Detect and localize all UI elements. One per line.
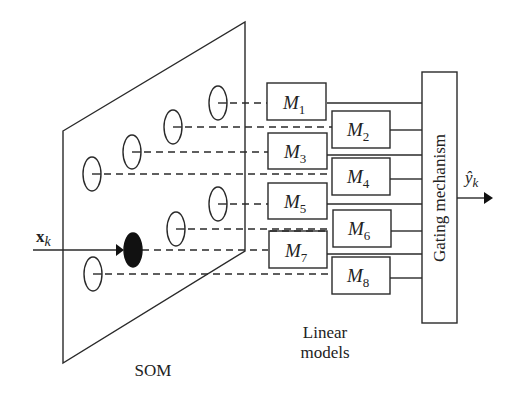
gating-mechanism-box: Gating mechanism bbox=[422, 72, 457, 323]
arrowhead-icon bbox=[116, 244, 124, 256]
gating-label: Gating mechanism bbox=[430, 134, 449, 262]
output-label: ŷk bbox=[463, 168, 479, 190]
input-label: xk bbox=[36, 227, 52, 249]
model-box-m3: M3 bbox=[268, 133, 327, 169]
linear-models-label-line1: Linear bbox=[303, 323, 348, 342]
model-box-m2: M2 bbox=[332, 111, 390, 148]
som-linear-models-diagram: xk M1 M3 M5 M7 M2 M4 M6 bbox=[0, 0, 521, 395]
node-center-stubs bbox=[92, 103, 227, 274]
model-box-m7: M7 bbox=[269, 231, 327, 268]
model-box-m5: M5 bbox=[268, 183, 327, 219]
som-nodes bbox=[83, 86, 227, 291]
model-box-m4: M4 bbox=[332, 158, 390, 195]
model-box-m8: M8 bbox=[332, 257, 390, 294]
model-box-m6: M6 bbox=[333, 210, 391, 247]
som-label: SOM bbox=[135, 361, 172, 380]
linear-models-label-line2: models bbox=[300, 343, 349, 362]
arrowhead-icon bbox=[484, 192, 493, 204]
output-arrow bbox=[457, 192, 493, 204]
model-box-m1: M1 bbox=[267, 83, 326, 120]
som-node-winner bbox=[124, 233, 142, 267]
